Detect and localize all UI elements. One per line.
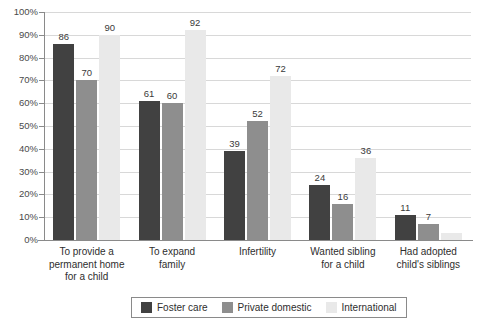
y-axis-label: 0% — [2, 235, 38, 245]
bar-value-label: 36 — [351, 145, 380, 156]
category-label-line: family — [121, 259, 222, 272]
legend-item[interactable]: International — [326, 302, 397, 313]
bar[interactable] — [224, 151, 245, 240]
bar-value-label: 16 — [328, 191, 357, 202]
bar-value-label: 90 — [95, 22, 124, 33]
x-axis-category-label: Had adoptedchild's siblings — [378, 246, 479, 271]
legend-swatch-icon — [326, 302, 337, 313]
bar-value-label: 70 — [72, 67, 101, 78]
y-axis-label: 60% — [2, 98, 38, 108]
y-axis-label: 90% — [2, 30, 38, 40]
bar[interactable] — [247, 121, 268, 240]
bar-value-label: 72 — [266, 63, 295, 74]
bar-value-label: 39 — [220, 138, 249, 149]
y-axis-tick — [39, 126, 44, 127]
legend-item[interactable]: Private domestic — [222, 302, 312, 313]
y-axis: 100%90%80%70%60%50%40%30%20%10%0% — [0, 0, 38, 329]
chart-legend: Foster carePrivate domesticInternational — [131, 297, 407, 318]
bar-group: 241636 — [309, 12, 376, 240]
y-axis-tick — [39, 194, 44, 195]
bar-group: 395272 — [224, 12, 291, 240]
y-axis-tick — [39, 149, 44, 150]
x-axis-line — [38, 240, 473, 241]
bar-value-label: 24 — [305, 172, 334, 183]
category-label-line: Had adopted — [378, 246, 479, 259]
plot-area: 867090616092395272241636117 — [44, 12, 471, 240]
bar-value-label: 7 — [414, 211, 443, 222]
legend-label: Private domestic — [238, 302, 312, 313]
y-axis-tick — [39, 12, 44, 13]
bar[interactable] — [162, 103, 183, 240]
bar-group: 117 — [395, 12, 462, 240]
bar[interactable] — [332, 204, 353, 240]
y-axis-label: 40% — [2, 144, 38, 154]
y-axis-tick — [39, 103, 44, 104]
y-axis-tick — [39, 172, 44, 173]
legend-label: International — [342, 302, 397, 313]
y-axis-label: 30% — [2, 167, 38, 177]
y-axis-label: 50% — [2, 121, 38, 131]
y-axis-tick — [39, 35, 44, 36]
bar[interactable] — [441, 233, 462, 240]
category-label-line: child's siblings — [378, 259, 479, 272]
y-axis-tick — [39, 217, 44, 218]
y-axis-label: 20% — [2, 189, 38, 199]
bar[interactable] — [270, 76, 291, 240]
y-axis-label: 70% — [2, 75, 38, 85]
bar[interactable] — [355, 158, 376, 240]
bar[interactable] — [53, 44, 74, 240]
bar[interactable] — [395, 215, 416, 240]
bar-value-label: 60 — [158, 90, 187, 101]
y-axis-label: 100% — [2, 7, 38, 17]
legend-label: Foster care — [157, 302, 208, 313]
bar[interactable] — [76, 80, 97, 240]
y-axis-line — [44, 12, 45, 241]
y-axis-label: 10% — [2, 212, 38, 222]
legend-swatch-icon — [141, 302, 152, 313]
bar-value-label: 52 — [243, 108, 272, 119]
y-axis-tick — [39, 58, 44, 59]
y-axis-label: 80% — [2, 53, 38, 63]
bar-group: 867090 — [53, 12, 120, 240]
bar[interactable] — [309, 185, 330, 240]
bar-value-label: 92 — [181, 17, 210, 28]
bar[interactable] — [139, 101, 160, 240]
y-axis-tick — [39, 80, 44, 81]
bar-chart: 100%90%80%70%60%50%40%30%20%10%0% 867090… — [0, 0, 481, 329]
legend-swatch-icon — [222, 302, 233, 313]
bar[interactable] — [99, 35, 120, 240]
bar-group: 616092 — [139, 12, 206, 240]
bar[interactable] — [418, 224, 439, 240]
legend-item[interactable]: Foster care — [141, 302, 208, 313]
category-label-line: for a child — [36, 271, 137, 284]
bar-value-label: 86 — [49, 31, 78, 42]
y-axis-tick — [39, 240, 44, 241]
bar[interactable] — [185, 30, 206, 240]
